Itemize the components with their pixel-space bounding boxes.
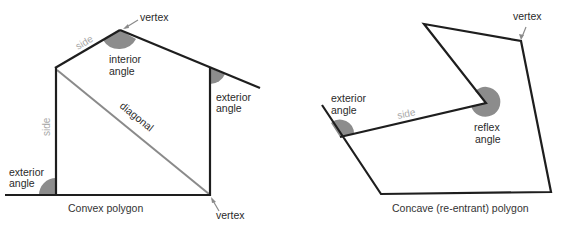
exterior-angle-marker-left [39,178,56,195]
vertex-arrow-icon [519,27,526,40]
side-label-left: side [41,117,52,136]
side-label-roof: side [74,33,96,52]
exterior-angle-right-label-line2: angle [216,102,242,114]
concave-caption: Concave (re-entrant) polygon [392,202,529,214]
convex-caption: Convex polygon [68,202,143,214]
exterior-angle-left-label-line2: angle [9,177,35,189]
reflex-angle-label-line1: reflex [474,121,500,133]
diagonal-label: diagonal [118,99,156,133]
vertex-arrow-top-icon [123,20,138,29]
reflex-angle-label-line2: angle [475,133,501,145]
interior-angle-marker [103,30,136,49]
convex-polygon: vertex side interior angle exterior angl… [5,11,260,221]
interior-angle-label-line1: interior [109,53,142,65]
vertex-label-bottom: vertex [216,209,245,221]
exterior-angle-label-line1: exterior [331,92,367,104]
interior-angle-label-line2: angle [109,65,135,77]
polygon-diagram: vertex side interior angle exterior angl… [0,0,562,231]
diagonal-line [57,70,209,194]
exterior-angle-label-line2: angle [331,104,357,116]
vertex-label-top: vertex [140,11,169,23]
concave-polygon: vertex exterior angle side reflex angle … [322,10,551,214]
vertex-label: vertex [513,10,542,22]
